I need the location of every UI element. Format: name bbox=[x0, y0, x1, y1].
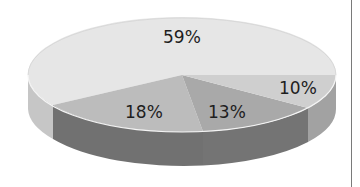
label-18: 18% bbox=[125, 104, 163, 121]
pie-chart: 59% 10% 13% 18% bbox=[0, 0, 360, 187]
label-59: 59% bbox=[163, 29, 201, 46]
label-13: 13% bbox=[208, 104, 246, 121]
label-10: 10% bbox=[279, 80, 317, 97]
frame-border-line bbox=[351, 0, 352, 187]
